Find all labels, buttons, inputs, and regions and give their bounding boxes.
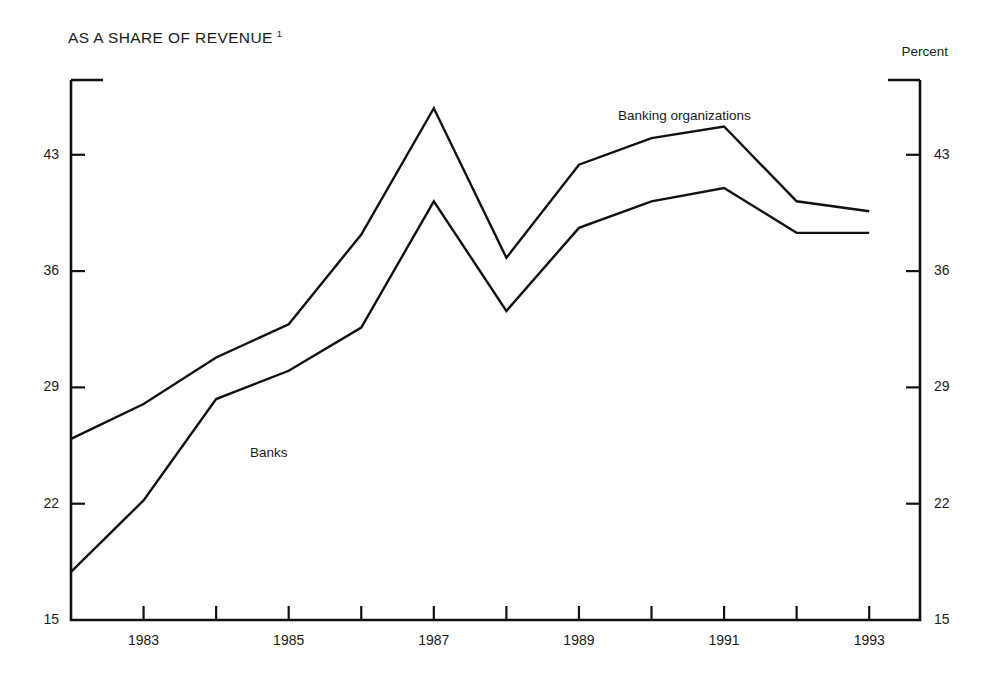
y-axis-tick-label-right: 15 bbox=[934, 611, 974, 627]
x-axis-tick-label: 1993 bbox=[839, 632, 899, 648]
series-line-banks bbox=[71, 188, 869, 572]
y-axis-tick-label-right: 29 bbox=[934, 378, 974, 394]
y-axis-tick-label-left: 22 bbox=[19, 495, 59, 511]
y-axis-tick-label-left: 36 bbox=[19, 262, 59, 278]
x-axis-tick-label: 1987 bbox=[404, 632, 464, 648]
y-axis-tick-label-right: 36 bbox=[934, 262, 974, 278]
axis-frame bbox=[71, 80, 920, 620]
plot-area bbox=[0, 0, 1003, 680]
x-axis-tick-label: 1983 bbox=[114, 632, 174, 648]
chart-figure: AS A SHARE OF REVENUE1 Percent Banking o… bbox=[0, 0, 1003, 680]
y-axis-tick-label-left: 15 bbox=[19, 611, 59, 627]
x-axis-tick-label: 1991 bbox=[694, 632, 754, 648]
x-axis-tick-label: 1989 bbox=[549, 632, 609, 648]
series-line-banking-organizations bbox=[71, 108, 869, 439]
y-axis-tick-label-right: 43 bbox=[934, 146, 974, 162]
y-axis-tick-label-left: 43 bbox=[19, 146, 59, 162]
x-axis-tick-label: 1985 bbox=[259, 632, 319, 648]
y-axis-tick-label-left: 29 bbox=[19, 378, 59, 394]
y-axis-tick-label-right: 22 bbox=[934, 495, 974, 511]
